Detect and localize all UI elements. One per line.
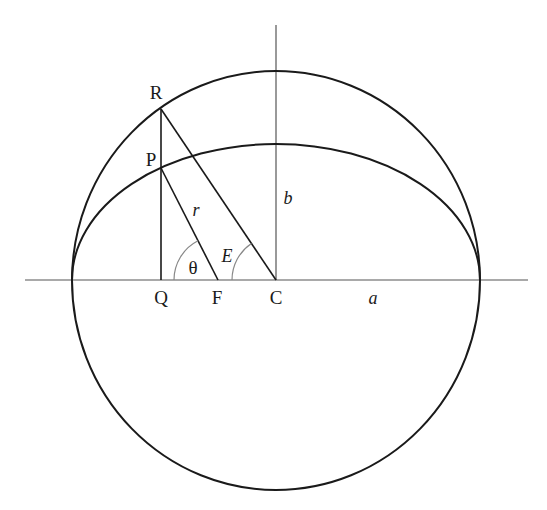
label-p-point: P [146,149,157,170]
label-f-focus: F [212,287,223,308]
label-a-semi-major: a [369,288,378,308]
label-r-point: R [150,82,163,103]
label-c-center: C [270,287,283,308]
line-c-r [161,109,276,280]
label-theta-true-anomaly: θ [188,257,197,278]
eccentric-anomaly-diagram: R P Q F C r b a θ E [0,0,547,510]
e-angle-arc [232,244,251,281]
label-q-point: Q [154,287,168,308]
label-e-eccentric-anomaly: E [221,246,233,266]
label-b-semi-minor: b [284,188,293,208]
label-r-radius: r [192,200,200,220]
